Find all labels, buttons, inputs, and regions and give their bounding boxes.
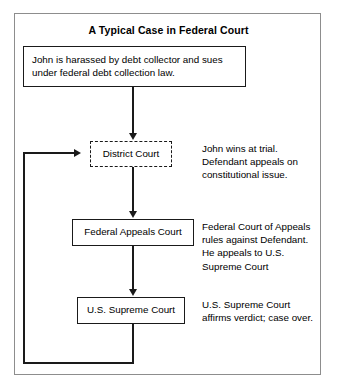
node-federal-appeals-court: Federal Appeals Court <box>72 219 194 246</box>
connector-district-to-appeals <box>132 167 134 212</box>
arrowhead-right-icon <box>74 149 81 157</box>
note-district-court: John wins at trial. Defendant appeals on… <box>202 142 314 182</box>
arrowhead-down-icon <box>129 211 137 218</box>
node-district-court-label: District Court <box>103 148 160 161</box>
diagram-canvas: A Typical Case in Federal Court John is … <box>0 0 337 388</box>
node-district-court: District Court <box>90 141 172 167</box>
node-supreme-court-label: U.S. Supreme Court <box>87 304 175 317</box>
connector-loop-segment-up <box>23 152 25 363</box>
page-title: A Typical Case in Federal Court <box>30 24 307 36</box>
arrowhead-down-icon <box>129 133 137 140</box>
node-case-facts: John is harassed by debt collector and s… <box>23 46 246 87</box>
note-federal-appeals-court: Federal Court of Appeals rules against D… <box>202 220 314 273</box>
connector-loop-segment-down <box>132 324 134 364</box>
connector-appeals-to-supreme <box>132 246 134 290</box>
connector-loop-segment-bottom <box>23 362 134 364</box>
node-case-facts-line1: John is harassed by debt collector and s… <box>32 54 223 67</box>
connector-loop-segment-top <box>23 152 75 154</box>
node-case-facts-line2: under federal debt collection law. <box>32 67 223 80</box>
node-supreme-court: U.S. Supreme Court <box>77 297 185 324</box>
connector-facts-to-district <box>132 87 134 134</box>
arrowhead-down-icon <box>129 289 137 296</box>
note-supreme-court: U.S. Supreme Court affirms verdict; case… <box>202 298 314 324</box>
node-federal-appeals-court-label: Federal Appeals Court <box>84 226 181 239</box>
